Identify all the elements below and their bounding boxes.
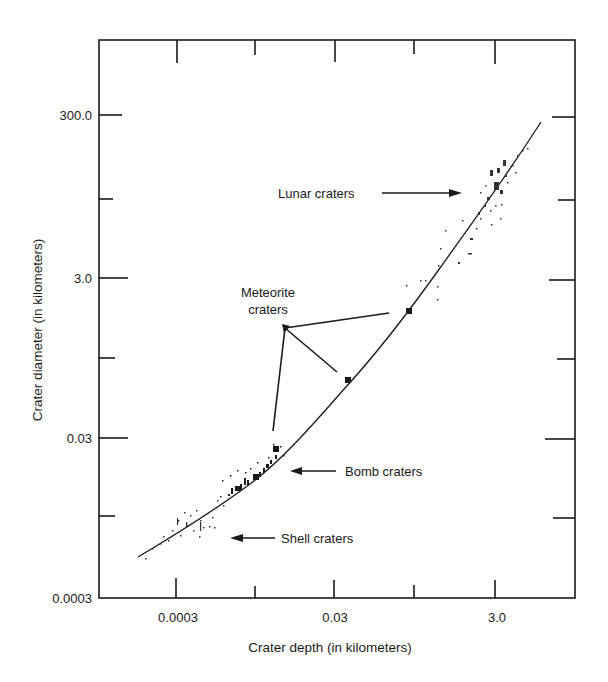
y-tick-label: 0.0003 xyxy=(52,591,92,606)
x-tick-label: 0.03 xyxy=(322,610,347,625)
lunar-crater-points xyxy=(406,148,529,301)
x-tick-label: 3.0 xyxy=(488,610,506,625)
shell-craters-label: Shell craters xyxy=(281,531,354,546)
y-axis-label: Crater diameter (in kilometers) xyxy=(30,239,45,421)
shell-arrow-icon xyxy=(230,534,275,542)
meteorite-crater-points xyxy=(273,308,412,452)
y-tick-label: 0.03 xyxy=(67,431,92,446)
y-tick-label: 300.0 xyxy=(59,108,92,123)
meteorite-craters-label-line2: craters xyxy=(248,302,288,317)
lunar-craters-label: Lunar craters xyxy=(278,186,355,201)
bomb-arrow-icon xyxy=(290,467,336,475)
crater-chart: 300.0 3.0 0.03 0.0003 0.0003 0.03 3.0 Cr… xyxy=(0,0,608,682)
x-axis-label: Crater depth (in kilometers) xyxy=(248,640,412,655)
bottom-ticks xyxy=(176,578,495,598)
lunar-arrow-icon xyxy=(382,189,462,197)
right-ticks xyxy=(545,117,575,518)
y-tick-label: 3.0 xyxy=(74,271,92,286)
left-ticks xyxy=(99,115,128,516)
plot-frame xyxy=(99,40,575,598)
meteorite-pointer-lines xyxy=(273,313,389,431)
meteorite-craters-label-line1: Meteorite xyxy=(241,285,295,300)
top-ticks xyxy=(177,40,495,64)
x-tick-label: 0.0003 xyxy=(158,610,198,625)
bomb-craters-label: Bomb craters xyxy=(345,464,423,479)
